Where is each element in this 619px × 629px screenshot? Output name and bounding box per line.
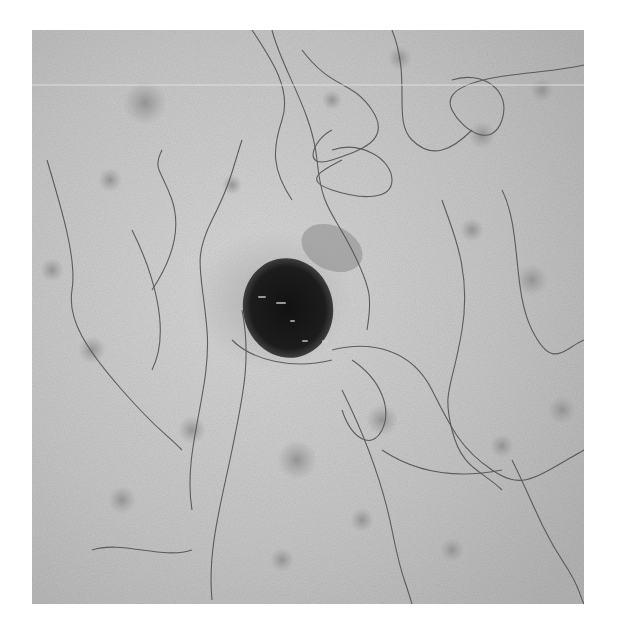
skin-lesion-photo [32, 30, 584, 604]
top-band-artifact [32, 84, 584, 86]
